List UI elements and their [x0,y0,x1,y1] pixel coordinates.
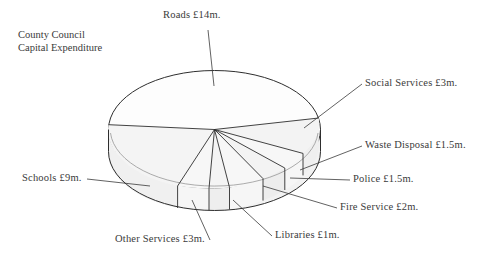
slice-label-other-services: Other Services £3m. [115,233,205,244]
slice-label-schools: Schools £9m. [22,172,82,183]
chart-figure: County Council Capital Expenditure Roads… [0,0,480,271]
slice-label-fire-service: Fire Service £2m. [340,201,418,212]
slice-label-social-services: Social Services £3m. [365,77,457,88]
slice-label-waste-disposal: Waste Disposal £1.5m. [365,139,466,150]
chart-title-line1: County Council [18,29,85,40]
chart-title-line2: Capital Expenditure [18,41,102,54]
slice-label-roads: Roads £14m. [163,9,221,20]
leader-social-services [304,84,362,128]
chart-title: County Council Capital Expenditure [18,28,102,54]
slice-label-libraries: Libraries £1m. [275,229,340,240]
slice-label-police: Police £1.5m. [353,173,414,184]
